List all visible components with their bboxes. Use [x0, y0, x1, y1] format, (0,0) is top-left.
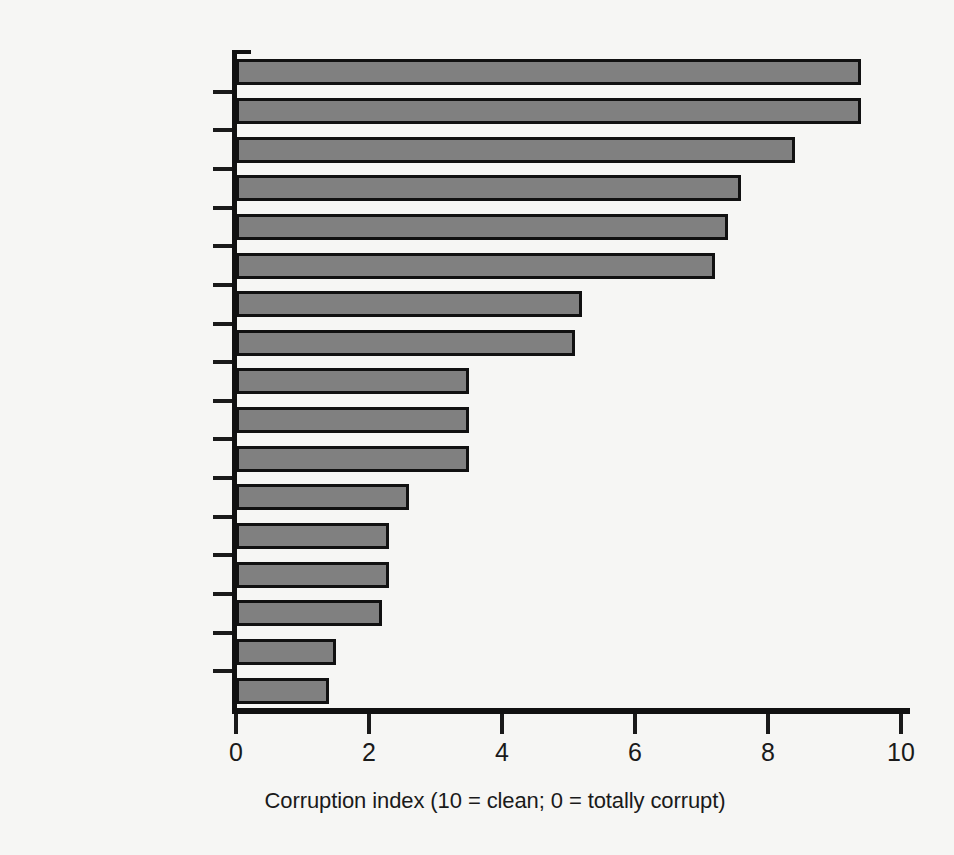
- y-axis-tick: [213, 283, 232, 287]
- bar[interactable]: [236, 59, 861, 85]
- bar[interactable]: [236, 678, 329, 704]
- bar[interactable]: [236, 137, 795, 163]
- chart-row: Finland: [236, 53, 901, 92]
- y-axis-tick: [213, 244, 232, 248]
- x-axis-tick-label: 4: [495, 738, 509, 767]
- chart-row: Brazil: [236, 362, 901, 401]
- x-axis-tick-label: 0: [229, 738, 243, 767]
- y-axis-tick: [213, 399, 232, 403]
- chart-row: United Kingdom: [236, 130, 901, 169]
- y-axis-top-cap: [232, 50, 251, 54]
- bar[interactable]: [236, 523, 389, 549]
- chart-row: Somalia: [236, 671, 901, 710]
- chart-row: Japan: [236, 169, 901, 208]
- x-axis-tick: [234, 714, 238, 734]
- y-axis-tick: [213, 553, 232, 557]
- y-axis-tick: [213, 515, 232, 519]
- corruption-index-bar-chart: FinlandNew ZealandUnited KingdomJapanFra…: [0, 0, 954, 855]
- y-axis-tick: [213, 592, 232, 596]
- x-axis-tick: [633, 714, 637, 734]
- bar[interactable]: [236, 214, 728, 240]
- y-axis-tick: [213, 360, 232, 364]
- x-axis-title-text: Corruption index (10 = clean; 0 = totall…: [229, 788, 726, 814]
- bar[interactable]: [236, 446, 469, 472]
- bar[interactable]: [236, 330, 575, 356]
- chart-row: Iraq: [236, 633, 901, 672]
- y-axis-line: [232, 50, 237, 713]
- chart-row: France: [236, 208, 901, 247]
- x-axis-tick: [500, 714, 504, 734]
- bar[interactable]: [236, 484, 409, 510]
- chart-row: India: [236, 439, 901, 478]
- chart-row: United States: [236, 246, 901, 285]
- chart-row: New Zealand: [236, 92, 901, 131]
- bar[interactable]: [236, 407, 469, 433]
- bar[interactable]: [236, 291, 582, 317]
- x-axis-title: Corruption index (10 = clean; 0 = totall…: [0, 788, 954, 814]
- chart-row: Italy: [236, 285, 901, 324]
- y-axis-tick: [213, 167, 232, 171]
- plot-area: FinlandNew ZealandUnited KingdomJapanFra…: [236, 53, 901, 710]
- chart-row: Nigeria: [236, 594, 901, 633]
- bar[interactable]: [236, 98, 861, 124]
- y-axis-tick: [213, 437, 232, 441]
- bar[interactable]: [236, 368, 469, 394]
- x-axis-tick-label: 8: [761, 738, 775, 767]
- bar[interactable]: [236, 253, 715, 279]
- x-axis-line: [232, 708, 910, 714]
- chart-row: Indonesia: [236, 555, 901, 594]
- chart-row: Russia: [236, 517, 901, 556]
- x-axis-tick: [367, 714, 371, 734]
- y-axis-tick: [213, 128, 232, 132]
- x-axis-tick-label: 10: [887, 738, 915, 767]
- x-axis-tick: [766, 714, 770, 734]
- x-axis-tick-label: 6: [628, 738, 642, 767]
- chart-row: Vietnam: [236, 478, 901, 517]
- bar[interactable]: [236, 639, 336, 665]
- bar[interactable]: [236, 562, 389, 588]
- y-axis-tick: [213, 476, 232, 480]
- bar[interactable]: [236, 600, 382, 626]
- y-axis-tick: [213, 90, 232, 94]
- x-axis-tick: [899, 714, 903, 734]
- chart-row: China: [236, 401, 901, 440]
- x-axis-tick-label: 2: [362, 738, 376, 767]
- chart-row: South Korea: [236, 324, 901, 363]
- bar[interactable]: [236, 175, 741, 201]
- y-axis-tick: [213, 669, 232, 673]
- y-axis-tick: [213, 631, 232, 635]
- y-axis-tick: [213, 206, 232, 210]
- y-axis-tick: [213, 322, 232, 326]
